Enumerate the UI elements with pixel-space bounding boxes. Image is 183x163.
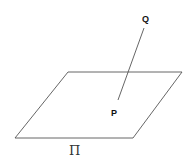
plane-pi bbox=[15, 72, 182, 138]
point-p-label: P bbox=[111, 108, 117, 118]
segment-pq bbox=[118, 28, 144, 100]
plane-label: Π bbox=[69, 143, 80, 158]
plane-diagram: Q P Π bbox=[0, 0, 183, 163]
point-q-label: Q bbox=[142, 14, 149, 24]
